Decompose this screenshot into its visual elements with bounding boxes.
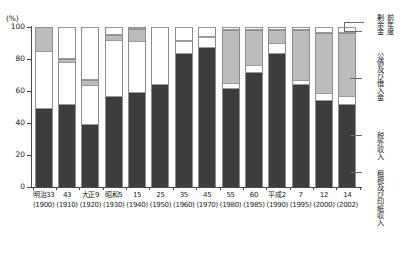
bar-column[interactable]: [151, 27, 169, 187]
stacked-bar[interactable]: [105, 27, 123, 187]
bar-column[interactable]: [338, 27, 356, 187]
bar-segment-bonds: [129, 29, 145, 42]
y-axis-tick-label: 100: [1, 23, 25, 31]
x-axis-tick: [360, 187, 361, 190]
legend: 前年度剰余金公債及び借入金税外収入租税及び印紙収入: [362, 12, 406, 242]
bar-segment-tax: [82, 125, 98, 187]
bar-segment-surplus: [129, 27, 145, 29]
bar-column[interactable]: [58, 27, 76, 187]
legend-label: 税外収入: [376, 132, 385, 160]
x-axis-tick: [33, 187, 34, 190]
bar-segment-bonds: [293, 30, 309, 80]
bar-segment-nontax: [59, 62, 75, 105]
bar-segment-tax: [129, 93, 145, 187]
bar-segment-bonds: [106, 35, 122, 40]
legend-leader-line-vertical: [344, 22, 345, 32]
bar-column[interactable]: [128, 27, 146, 187]
legend-label: 公債及び借入金: [376, 52, 385, 101]
bar-segment-tax: [199, 48, 215, 187]
bar-segment-surplus: [316, 27, 332, 33]
stacked-bar[interactable]: [128, 27, 146, 187]
bar-segment-surplus: [293, 27, 309, 30]
legend-label: 租税及び印紙収入: [376, 170, 385, 226]
y-axis-tick: [27, 27, 31, 28]
y-axis-tick-label: 60: [1, 87, 25, 95]
legend-item-surplus[interactable]: 前年度剰余金: [376, 14, 395, 35]
legend-leader-line: [350, 135, 362, 136]
bar-segment-bonds: [339, 33, 355, 95]
stacked-bar[interactable]: [338, 27, 356, 187]
bar-segment-nontax: [82, 85, 98, 125]
bar-column[interactable]: [198, 27, 216, 187]
bar-column[interactable]: [35, 27, 53, 187]
bar-segment-nontax: [106, 40, 122, 98]
stacked-bar[interactable]: [268, 27, 286, 187]
x-axis-tick: [196, 187, 197, 190]
y-axis-tick: [27, 59, 31, 60]
bar-segment-bonds: [36, 27, 52, 51]
bar-segment-bonds: [223, 30, 239, 83]
x-axis-tick: [79, 187, 80, 190]
x-axis-tick: [103, 187, 104, 190]
y-axis-tick-label: 80: [1, 55, 25, 63]
stacked-bar[interactable]: [245, 27, 263, 187]
stacked-bar[interactable]: [175, 27, 193, 187]
bar-segment-surplus: [82, 27, 98, 80]
bar-segment-nontax: [316, 93, 332, 101]
bar-segment-tax: [316, 101, 332, 187]
stacked-bar[interactable]: [222, 27, 240, 187]
x-axis-tick: [336, 187, 337, 190]
bar-column[interactable]: [292, 27, 310, 187]
legend-item-bonds[interactable]: 公債及び借入金: [376, 52, 385, 101]
bar-segment-surplus: [223, 27, 239, 30]
y-axis-tick: [27, 187, 31, 188]
stacked-bar-chart: (%) 100806040200 明治33(1900)43(1910)大正9(1…: [0, 0, 406, 253]
bar-segment-nontax: [339, 96, 355, 106]
bar-column[interactable]: [268, 27, 286, 187]
bar-segment-bonds: [246, 30, 262, 65]
x-axis-tick: [266, 187, 267, 190]
bar-segment-surplus: [199, 27, 215, 37]
stacked-bar[interactable]: [151, 27, 169, 187]
bar-segment-bonds: [316, 33, 332, 92]
legend-label: 前年度: [386, 14, 395, 35]
bar-column[interactable]: [81, 27, 99, 187]
bar-segment-nontax: [293, 80, 309, 85]
bar-column[interactable]: [175, 27, 193, 187]
x-axis-tick: [173, 187, 174, 190]
y-axis-tick-label: 0: [1, 183, 25, 191]
y-axis-tick: [27, 123, 31, 124]
y-axis-tick: [27, 91, 31, 92]
bar-segment-nontax: [223, 83, 239, 89]
x-axis-label: 14(2002): [329, 191, 365, 210]
y-axis-tick: [27, 155, 31, 156]
x-axis-tick: [313, 187, 314, 190]
bar-segment-tax: [59, 105, 75, 187]
bar-column[interactable]: [315, 27, 333, 187]
bar-segment-nontax: [129, 41, 145, 92]
bar-segment-tax: [339, 105, 355, 187]
stacked-bar[interactable]: [292, 27, 310, 187]
stacked-bar[interactable]: [198, 27, 216, 187]
bar-segment-tax: [152, 85, 168, 187]
bar-segment-bonds: [82, 80, 98, 85]
bar-segment-tax: [36, 109, 52, 187]
stacked-bar[interactable]: [315, 27, 333, 187]
x-axis-tick: [56, 187, 57, 190]
bar-segment-bonds: [59, 59, 75, 62]
bar-segment-tax: [176, 54, 192, 187]
x-axis-labels: 明治33(1900)43(1910)大正9(1920)昭和5(1930)15(1…: [0, 191, 406, 231]
legend-item-nontax[interactable]: 税外収入: [376, 132, 385, 160]
bar-segment-nontax: [269, 43, 285, 54]
stacked-bar[interactable]: [35, 27, 53, 187]
bar-segment-surplus: [59, 27, 75, 59]
legend-leader-line-top: [344, 22, 364, 23]
bar-column[interactable]: [105, 27, 123, 187]
stacked-bar[interactable]: [58, 27, 76, 187]
bar-column[interactable]: [222, 27, 240, 187]
x-axis-tick: [290, 187, 291, 190]
bar-column[interactable]: [245, 27, 263, 187]
stacked-bar[interactable]: [81, 27, 99, 187]
legend-leader-line: [350, 78, 362, 79]
legend-item-tax[interactable]: 租税及び印紙収入: [376, 170, 385, 226]
